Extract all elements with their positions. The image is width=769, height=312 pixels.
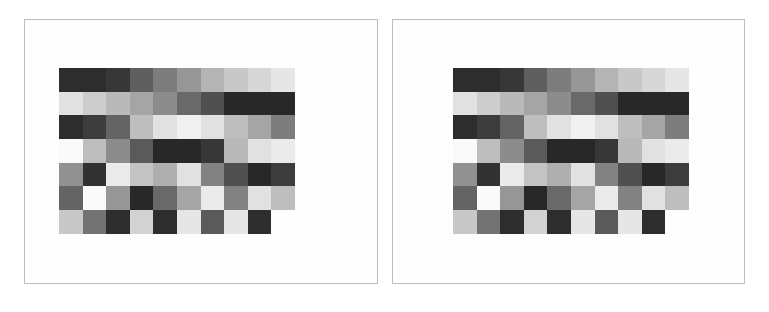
grid-cell — [642, 210, 666, 234]
grid-cell — [59, 115, 83, 139]
grid-cell — [500, 92, 524, 116]
grid-cell — [618, 163, 642, 187]
grid-cell — [153, 186, 177, 210]
grid-cell — [453, 92, 477, 116]
grid-cell — [59, 210, 83, 234]
grid-cell — [201, 68, 225, 92]
grid-cell — [83, 68, 107, 92]
grid-cell — [130, 115, 154, 139]
grid-cell — [571, 68, 595, 92]
grid-cell — [477, 92, 501, 116]
grid-cell — [130, 68, 154, 92]
grid-cell — [642, 186, 666, 210]
grid-cell — [642, 139, 666, 163]
grid-cell — [595, 139, 619, 163]
grid-cell — [106, 68, 130, 92]
grid-cell — [500, 115, 524, 139]
grid-cell — [248, 210, 272, 234]
grid-cell — [153, 139, 177, 163]
grid-cell — [106, 210, 130, 234]
grid-cell — [477, 186, 501, 210]
grid-cell — [571, 139, 595, 163]
grid-cell — [453, 186, 477, 210]
grid-cell — [477, 163, 501, 187]
grid-cell — [177, 163, 201, 187]
grid-cell — [106, 186, 130, 210]
grid-cell — [595, 163, 619, 187]
grid-cell — [618, 115, 642, 139]
grid-cell — [271, 186, 295, 210]
figure-panel-right — [392, 19, 745, 284]
grid-cell — [224, 68, 248, 92]
grid-cell — [618, 186, 642, 210]
grid-cell — [547, 210, 571, 234]
pixel-grid-right — [453, 68, 689, 234]
grid-cell — [665, 210, 689, 234]
grid-cell — [83, 139, 107, 163]
grid-cell — [248, 186, 272, 210]
grid-cell — [224, 92, 248, 116]
grid-cell — [224, 139, 248, 163]
grid-cell — [618, 68, 642, 92]
pixel-grid-left — [59, 68, 295, 234]
grid-cell — [665, 115, 689, 139]
grid-cell — [106, 115, 130, 139]
grid-cell — [547, 115, 571, 139]
grid-cell — [248, 139, 272, 163]
grid-cell — [153, 115, 177, 139]
grid-cell — [642, 68, 666, 92]
grid-cell — [500, 163, 524, 187]
grid-cell — [524, 186, 548, 210]
grid-cell — [500, 186, 524, 210]
grid-cell — [595, 186, 619, 210]
grid-cell — [477, 210, 501, 234]
grid-cell — [106, 92, 130, 116]
figure-panel-left — [24, 19, 378, 284]
grid-cell — [477, 68, 501, 92]
grid-cell — [106, 139, 130, 163]
grid-cell — [130, 163, 154, 187]
grid-cell — [547, 186, 571, 210]
grid-cell — [595, 92, 619, 116]
grid-cell — [524, 92, 548, 116]
grid-cell — [524, 139, 548, 163]
grid-cell — [83, 163, 107, 187]
grid-cell — [571, 186, 595, 210]
grid-cell — [224, 115, 248, 139]
grid-cell — [524, 163, 548, 187]
grid-cell — [477, 115, 501, 139]
grid-cell — [130, 210, 154, 234]
grid-cell — [642, 92, 666, 116]
grid-cell — [177, 68, 201, 92]
grid-cell — [201, 186, 225, 210]
grid-cell — [153, 163, 177, 187]
grid-cell — [571, 115, 595, 139]
grid-cell — [271, 68, 295, 92]
grid-cell — [248, 68, 272, 92]
grid-cell — [248, 92, 272, 116]
grid-cell — [59, 186, 83, 210]
grid-cell — [153, 92, 177, 116]
grid-cell — [665, 163, 689, 187]
grid-cell — [177, 186, 201, 210]
grid-cell — [59, 68, 83, 92]
grid-cell — [547, 139, 571, 163]
grid-cell — [453, 139, 477, 163]
grid-cell — [201, 92, 225, 116]
grid-cell — [201, 115, 225, 139]
grid-cell — [153, 210, 177, 234]
grid-cell — [618, 210, 642, 234]
grid-cell — [547, 68, 571, 92]
grid-cell — [571, 210, 595, 234]
grid-cell — [618, 92, 642, 116]
grid-cell — [130, 139, 154, 163]
grid-cell — [59, 92, 83, 116]
grid-cell — [59, 139, 83, 163]
grid-cell — [595, 68, 619, 92]
grid-cell — [500, 139, 524, 163]
grid-cell — [500, 210, 524, 234]
grid-cell — [201, 210, 225, 234]
grid-cell — [224, 210, 248, 234]
grid-cell — [271, 115, 295, 139]
grid-cell — [271, 163, 295, 187]
